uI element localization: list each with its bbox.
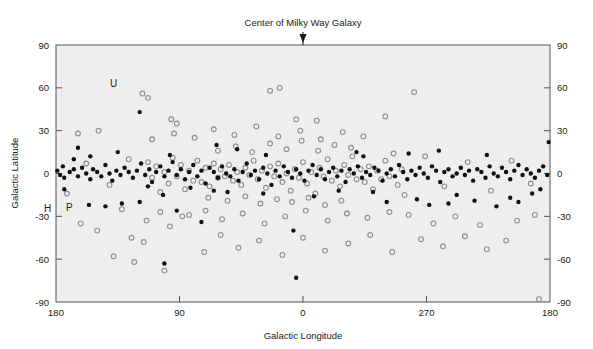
data-point-filled — [294, 167, 298, 171]
data-point-filled — [492, 171, 496, 175]
data-point-filled — [459, 166, 463, 170]
y-tick-label-right: 90 — [557, 40, 568, 51]
data-point-filled — [524, 167, 528, 171]
data-point-filled — [364, 170, 368, 174]
data-point-filled — [162, 174, 166, 178]
data-point-filled — [537, 168, 541, 172]
y-axis-title: Galactic Latitude — [9, 138, 20, 209]
data-point-filled — [103, 163, 107, 167]
data-point-filled — [389, 167, 393, 171]
data-point-filled — [442, 170, 446, 174]
data-point-filled — [352, 171, 356, 175]
data-point-filled — [91, 167, 95, 171]
data-point-filled — [438, 180, 442, 184]
data-point-filled — [331, 166, 335, 170]
data-point-filled — [127, 170, 131, 174]
data-point-filled — [265, 171, 269, 175]
data-point-filled — [253, 168, 257, 172]
data-point-filled — [116, 150, 120, 154]
data-point-filled — [417, 166, 421, 170]
data-point-filled — [138, 200, 142, 204]
data-point-filled — [269, 183, 273, 187]
data-point-filled — [471, 178, 475, 182]
data-point-filled — [62, 176, 66, 180]
data-point-filled — [203, 181, 207, 185]
data-point-filled — [343, 180, 347, 184]
y-tick-label-right: 0 — [557, 168, 562, 179]
data-point-filled — [187, 170, 191, 174]
data-point-filled — [131, 176, 135, 180]
data-point-filled — [298, 171, 302, 175]
data-point-filled — [68, 170, 72, 174]
data-point-filled — [508, 177, 512, 181]
data-point-filled — [154, 170, 158, 174]
data-point-filled — [463, 173, 467, 177]
data-point-filled — [118, 173, 122, 177]
data-point-filled — [405, 177, 409, 181]
data-point-filled — [161, 193, 165, 197]
data-point-filled — [87, 203, 91, 207]
data-point-filled — [454, 171, 458, 175]
data-point-filled — [261, 191, 265, 195]
data-point-filled — [315, 173, 319, 177]
x-tick-label: 180 — [48, 307, 64, 318]
data-point-filled — [58, 173, 62, 177]
data-point-filled — [273, 168, 277, 172]
chart-title: Center of Milky Way Galaxy — [245, 17, 362, 28]
data-point-filled — [360, 176, 364, 180]
data-point-filled — [385, 171, 389, 175]
x-axis-title: Galactic Longitude — [264, 330, 343, 341]
data-point-filled — [516, 200, 520, 204]
data-point-filled — [446, 201, 450, 205]
data-point-filled — [533, 176, 537, 180]
data-point-filled — [494, 204, 498, 208]
plot-annotation-label: U — [110, 78, 117, 89]
data-point-filled — [232, 167, 236, 171]
data-point-filled — [409, 168, 413, 172]
data-point-filled — [385, 200, 389, 204]
data-point-filled — [150, 180, 154, 184]
data-point-filled — [188, 186, 192, 190]
data-point-filled — [512, 168, 516, 172]
data-point-filled — [277, 174, 281, 178]
y-tick-label-left: -90 — [35, 297, 49, 308]
plot-annotation-label: P — [66, 202, 73, 213]
data-point-filled — [306, 168, 310, 172]
y-tick-label-right: -60 — [557, 254, 571, 265]
data-point-filled — [437, 148, 441, 152]
data-point-filled — [225, 190, 229, 194]
data-point-filled — [339, 168, 343, 172]
data-point-filled — [175, 208, 179, 212]
data-point-filled — [290, 176, 294, 180]
data-point-filled — [427, 203, 431, 207]
data-point-filled — [319, 167, 323, 171]
data-point-filled — [496, 174, 500, 178]
data-point-filled — [264, 153, 268, 157]
y-tick-label-left: 30 — [38, 125, 49, 136]
data-point-filled — [170, 160, 174, 164]
data-point-filled — [291, 228, 295, 232]
data-point-filled — [508, 196, 512, 200]
data-point-filled — [122, 166, 126, 170]
data-point-filled — [368, 173, 372, 177]
data-point-filled — [426, 176, 430, 180]
x-tick-label: 270 — [419, 307, 435, 318]
x-tick-label: 90 — [174, 307, 185, 318]
data-point-filled — [450, 174, 454, 178]
galactic-distribution-chart: Center of Milky Way Galaxy 180900270180 … — [0, 0, 593, 349]
data-point-filled — [62, 187, 66, 191]
data-point-filled — [61, 164, 65, 168]
data-point-filled — [397, 163, 401, 167]
data-point-filled — [376, 168, 380, 172]
data-point-filled — [335, 174, 339, 178]
data-point-filled — [485, 153, 489, 157]
data-point-filled — [80, 166, 84, 170]
data-point-filled — [354, 150, 358, 154]
data-point-filled — [138, 110, 142, 114]
data-point-filled — [88, 154, 92, 158]
data-point-filled — [323, 177, 327, 181]
y-tick-label-left: 60 — [38, 82, 49, 93]
x-tick-label: 0 — [300, 307, 305, 318]
data-point-filled — [401, 170, 405, 174]
data-point-filled — [310, 163, 314, 167]
